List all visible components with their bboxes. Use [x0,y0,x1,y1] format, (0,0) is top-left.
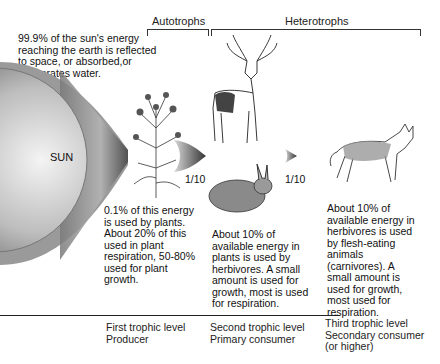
level-name: Third trophic level [325,318,424,330]
desc-line: most used for [327,295,440,307]
desc-line: herbivores is used [327,226,440,238]
desc-line: for respiration. [212,298,327,310]
plant-illustration [118,88,188,198]
desc-line: growth. [104,274,214,286]
rabbit-illustration [205,160,280,215]
producer-description: 0.1% of this energy is used by plants. A… [104,205,214,286]
level-name: First trophic level [106,322,185,334]
sun-label: SUN [50,151,73,163]
level-note: (or higher) [325,341,424,353]
desc-line: small amount is [327,272,440,284]
ratio-producer-to-primary: 1/10 [185,174,205,186]
trophic-level-first: First trophic level Producer [106,322,185,345]
primary-description: About 10% of available energy in plants … [212,229,327,310]
desc-line: plants is used by [212,252,327,264]
secondary-description: About 10% of available energy in herbivo… [327,203,440,318]
level-role: Primary consumer [210,334,305,346]
desc-line: animals [327,249,440,261]
coyote-illustration [325,122,420,187]
trophic-level-second: Second trophic level Primary consumer [210,322,305,345]
trophic-level-third: Third trophic level Secondary consumer (… [325,318,424,353]
divider-line [0,315,340,316]
desc-line: respiration, 50-80% [104,251,214,263]
deer-illustration [205,33,290,153]
desc-line: amount is used for [212,275,327,287]
desc-line: About 10% of [327,203,440,215]
ratio-primary-to-secondary: 1/10 [285,174,305,186]
desc-line: About 10% of [212,229,327,241]
desc-line: About 20% of this [104,228,214,240]
level-name: Second trophic level [210,322,305,334]
level-role: Producer [106,334,185,346]
desc-line: 0.1% of this energy [104,205,214,217]
